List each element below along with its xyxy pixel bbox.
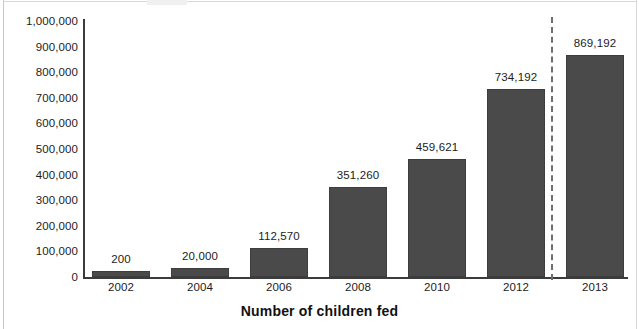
x-axis-tick-label-2004: 2004 xyxy=(171,281,229,293)
y-axis-line xyxy=(83,19,85,278)
bar-value-label-2010: 459,621 xyxy=(400,141,474,153)
y-axis-tick-label: 1,000,000 xyxy=(0,15,78,27)
bar-2002[interactable] xyxy=(92,271,150,277)
y-axis-tick-label: 200,000 xyxy=(0,220,78,232)
y-axis-tick-label: 900,000 xyxy=(0,41,78,53)
y-axis-tick-label: 600,000 xyxy=(0,117,78,129)
bar-value-label-2008: 351,260 xyxy=(321,169,395,181)
bar-2004[interactable] xyxy=(171,268,229,277)
bar-2006[interactable] xyxy=(250,248,308,277)
x-axis-tick-label-2002: 2002 xyxy=(92,281,150,293)
x-axis-tick-label-2006: 2006 xyxy=(250,281,308,293)
y-axis-tick-label: 800,000 xyxy=(0,66,78,78)
y-axis-tick-label: 300,000 xyxy=(0,194,78,206)
bar-2010[interactable] xyxy=(408,159,466,277)
bar-value-label-2013: 869,192 xyxy=(558,37,632,49)
x-axis-tick-label-2013: 2013 xyxy=(566,281,624,293)
y-axis-tick-label: 500,000 xyxy=(0,143,78,155)
bar-chart-plot-area: 1,000,000 900,000 800,000 700,000 600,00… xyxy=(0,0,639,329)
y-axis-tick-label: 400,000 xyxy=(0,169,78,181)
x-axis-tick-label-2008: 2008 xyxy=(329,281,387,293)
bar-2012[interactable] xyxy=(487,89,545,277)
chart-page: 1,000,000 900,000 800,000 700,000 600,00… xyxy=(0,0,639,329)
y-axis-tick-label: 100,000 xyxy=(0,245,78,257)
bar-value-label-2012: 734,192 xyxy=(479,71,553,83)
x-axis-tick-label-2012: 2012 xyxy=(487,281,545,293)
bar-2008[interactable] xyxy=(329,187,387,277)
y-axis-tick-label: 0 xyxy=(0,271,78,283)
bar-value-label-2004: 20,000 xyxy=(165,250,235,262)
y-axis-tick-label: 700,000 xyxy=(0,92,78,104)
bar-value-label-2006: 112,570 xyxy=(242,230,316,242)
x-axis-line xyxy=(83,277,628,279)
forecast-divider-dashed-line xyxy=(551,17,553,280)
bar-value-label-2002: 200 xyxy=(92,253,150,265)
x-axis-tick-label-2010: 2010 xyxy=(408,281,466,293)
x-axis-title: Number of children fed xyxy=(0,303,639,319)
bar-2013[interactable] xyxy=(566,55,624,277)
